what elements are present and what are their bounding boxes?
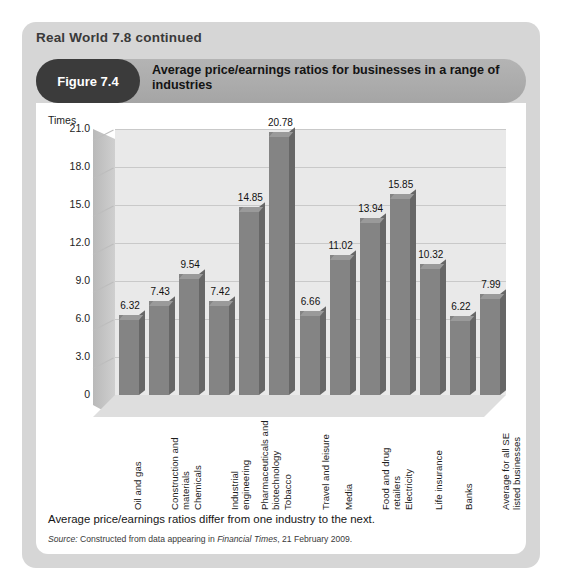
source-publication: Financial Times: [217, 534, 277, 544]
bar-value-label: 7.42: [203, 286, 237, 297]
bar-front-face: [300, 311, 320, 395]
bar: [149, 301, 169, 395]
bar-top-face: [119, 315, 143, 320]
chart-floor: [93, 395, 506, 417]
bar: [450, 316, 470, 395]
figure-title: Average price/earnings ratios for busine…: [152, 63, 512, 93]
x-axis-label: Life insurance: [434, 450, 445, 510]
x-axis-label: Electricity: [404, 469, 415, 510]
x-axis-label: Chemicals: [193, 465, 204, 510]
bar-front-face: [330, 255, 350, 395]
bar-side-face: [289, 127, 295, 395]
bar-front-face: [390, 194, 410, 395]
bar-front-face: [149, 301, 169, 395]
bar-top-face: [480, 294, 504, 299]
x-axis-label: Food and drug retailers: [381, 420, 402, 510]
bar-side-face: [229, 296, 235, 395]
figure-source: Source: Constructed from data appearing …: [48, 534, 352, 544]
bar-value-label: 20.78: [263, 117, 297, 128]
bar-side-face: [169, 296, 175, 395]
y-axis-tick-label: 9.0: [38, 274, 90, 286]
bar-value-label: 6.66: [294, 296, 328, 307]
bar-value-label: 10.32: [414, 249, 448, 260]
bar-value-label: 13.94: [354, 203, 388, 214]
bar-value-label: 6.22: [444, 301, 478, 312]
source-text-1: Constructed from data appearing in: [80, 534, 215, 544]
bar-front-face: [450, 316, 470, 395]
y-axis-tick-label: 6.0: [38, 312, 90, 324]
bar-front-face: [239, 207, 259, 395]
bar-front-face: [269, 132, 289, 395]
bar-value-label: 14.85: [233, 192, 267, 203]
bar-side-face: [500, 289, 506, 395]
bar-front-face: [420, 264, 440, 395]
bar-side-face: [350, 251, 356, 395]
y-axis-tick-label: 12.0: [38, 236, 90, 248]
bar-front-face: [209, 301, 229, 395]
bar-value-label: 15.85: [384, 179, 418, 190]
bar-series: 6.327.439.547.4214.8520.786.6611.0213.94…: [115, 129, 506, 395]
bar-top-face: [330, 255, 354, 260]
x-axis-label: Tobacco: [283, 474, 294, 510]
bar: [300, 311, 320, 395]
bar: [480, 294, 500, 395]
source-text-2: , 21 February 2009.: [277, 534, 352, 544]
bar-side-face: [320, 306, 326, 395]
bar-side-face: [380, 214, 386, 395]
bar-front-face: [179, 274, 199, 395]
bar-top-face: [300, 311, 324, 316]
bar-side-face: [470, 312, 476, 395]
y-axis-tick-label: 21.0: [38, 122, 90, 134]
x-axis-label: Oil and gas: [133, 461, 144, 510]
x-axis-label: Pharmaceuticals and biotechnology: [260, 420, 281, 510]
figure-page: Real World 7.8 continued Figure 7.4 Aver…: [0, 0, 562, 588]
bar-side-face: [440, 260, 446, 395]
chart: Times 03.06.09.012.015.018.021.0 6.327.4…: [36, 108, 526, 508]
x-axis-label: Travel and leisure: [321, 420, 332, 510]
y-axis-tick-label: 3.0: [38, 350, 90, 362]
y-axis-ticks: 03.06.09.012.015.018.021.0: [36, 129, 90, 395]
bar-side-face: [139, 310, 145, 395]
x-axis-label: Average for all SE listed businesses: [501, 420, 522, 510]
x-axis-label: Media: [344, 484, 355, 510]
bar-front-face: [119, 315, 139, 395]
figure-caption: Average price/earnings ratios differ fro…: [48, 513, 375, 525]
figure-number-badge: Figure 7.4: [36, 59, 140, 103]
x-axis-label: Industrial engineering: [230, 420, 251, 510]
bar-front-face: [480, 294, 500, 395]
bar-value-label: 11.02: [324, 240, 358, 251]
bar-top-face: [450, 316, 474, 321]
y-axis-tick-label: 15.0: [38, 198, 90, 210]
source-prefix: Source:: [48, 534, 78, 544]
x-axis-label: Banks: [464, 483, 475, 510]
bar: [420, 264, 440, 395]
bar-top-face: [420, 264, 444, 269]
x-axis-label: Construction and materials: [170, 420, 191, 510]
section-title: Real World 7.8 continued: [36, 30, 202, 45]
y-axis-tick-label: 0: [38, 388, 90, 400]
bar-top-face: [149, 301, 173, 306]
bar-value-label: 6.32: [113, 300, 147, 311]
bar-side-face: [259, 202, 265, 395]
bar-value-label: 7.99: [474, 279, 508, 290]
bar-top-face: [360, 218, 384, 223]
x-axis-labels: Oil and gasConstruction and materialsChe…: [115, 420, 506, 512]
bar-side-face: [410, 190, 416, 395]
bar-front-face: [360, 218, 380, 395]
bar: [269, 132, 289, 395]
bar-top-face: [390, 194, 414, 199]
bar: [179, 274, 199, 395]
bar: [239, 207, 259, 395]
figure-number-label: Figure 7.4: [57, 74, 118, 89]
bar-value-label: 9.54: [173, 259, 207, 270]
bar: [119, 315, 139, 395]
bar: [360, 218, 380, 395]
bar: [390, 194, 410, 395]
bar-value-label: 7.43: [143, 286, 177, 297]
bar: [330, 255, 350, 395]
bar: [209, 301, 229, 395]
y-axis-tick-label: 18.0: [38, 160, 90, 172]
